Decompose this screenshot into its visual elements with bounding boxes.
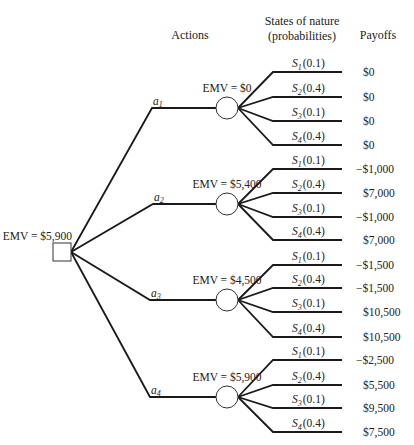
payoff-value: −$1,000 — [356, 163, 394, 176]
action-label-a4: a4 — [151, 384, 161, 398]
state-label-probability: (0.1) — [303, 250, 325, 263]
header-states-of-nature: States of nature — [265, 14, 340, 28]
tree-nodes — [53, 97, 238, 408]
state-label-probability: (0.1) — [303, 393, 325, 406]
state-label-subscript: 4 — [298, 136, 302, 145]
state-label: S3(0.1) — [292, 202, 325, 217]
state-label: S2(0.4) — [292, 370, 325, 385]
state-label-subscript: 1 — [298, 256, 302, 265]
payoff-value: $0 — [363, 66, 375, 78]
header-actions: Actions — [171, 28, 209, 42]
state-edge — [238, 288, 342, 300]
state-label-probability: (0.4) — [303, 225, 325, 238]
state-edge — [238, 204, 342, 217]
state-label-probability: (0.1) — [303, 345, 325, 358]
action-label-a1: a1 — [153, 95, 163, 109]
state-label-probability: (0.4) — [303, 178, 325, 191]
state-label-subscript: 3 — [297, 208, 302, 217]
state-label-probability: (0.4) — [303, 273, 325, 286]
state-label: S1(0.1) — [292, 57, 325, 72]
header-payoffs: Payoffs — [360, 28, 397, 42]
payoff-value: $0 — [363, 139, 375, 151]
action-label-a2: a2 — [154, 191, 164, 205]
payoff-value: $10,500 — [363, 306, 401, 319]
decision-node-square — [53, 243, 71, 261]
action-subscript: 4 — [157, 389, 161, 398]
payoff-value: $9,500 — [363, 402, 395, 415]
payoff-value: $5,500 — [363, 379, 395, 392]
state-label: S4(0.4) — [292, 322, 325, 337]
state-label-probability: (0.1) — [303, 202, 325, 215]
state-label-subscript: 1 — [298, 160, 302, 169]
header-probabilities: (probabilities) — [268, 29, 336, 43]
payoff-value: −$2,500 — [356, 354, 394, 367]
payoff-value: $10,500 — [363, 331, 401, 344]
chance-emv-label: EMV = $5,400 — [192, 178, 261, 191]
decision-tree-canvas: Actions States of nature (probabilities)… — [0, 0, 414, 445]
action-edge-a2 — [71, 204, 216, 252]
state-label-subscript: 4 — [298, 328, 302, 337]
state-label-subscript: 1 — [298, 351, 302, 360]
chance-emv-label: EMV = $5,900 — [192, 371, 261, 384]
payoff-value: $7,000 — [363, 234, 395, 247]
state-label-subscript: 4 — [298, 423, 302, 432]
payoff-value: $0 — [363, 91, 375, 103]
state-label: S3(0.1) — [292, 393, 325, 408]
chance-node-circle — [216, 193, 238, 215]
chance-node-circle — [216, 289, 238, 311]
state-edge — [238, 300, 342, 312]
payoff-value: −$1,500 — [356, 259, 394, 272]
payoff-value: −$1,000 — [356, 211, 394, 224]
state-label: S1(0.1) — [292, 345, 325, 360]
state-label: S1(0.1) — [292, 154, 325, 169]
decision-tree-diagram: Actions States of nature (probabilities)… — [0, 0, 414, 445]
chance-emv-label: EMV = $0 — [202, 82, 251, 94]
state-label: S2(0.4) — [292, 82, 325, 97]
state-label-subscript: 2 — [298, 376, 302, 385]
state-label-subscript: 4 — [298, 231, 302, 240]
state-label-probability: (0.4) — [303, 322, 325, 335]
state-label-subscript: 2 — [298, 184, 302, 193]
state-label: S3(0.1) — [292, 106, 325, 121]
state-label-subscript: 1 — [298, 63, 302, 72]
state-label-probability: (0.1) — [303, 297, 325, 310]
action-subscript: 3 — [156, 292, 161, 301]
state-label: S4(0.4) — [292, 225, 325, 240]
payoff-value: $7,000 — [363, 187, 395, 200]
state-label-probability: (0.1) — [303, 57, 325, 70]
state-label-probability: (0.1) — [303, 154, 325, 167]
state-label-probability: (0.4) — [303, 417, 325, 430]
state-label-probability: (0.4) — [303, 130, 325, 143]
state-label: S4(0.4) — [292, 417, 325, 432]
payoff-value: $0 — [363, 115, 375, 127]
state-label: S1(0.1) — [292, 250, 325, 265]
state-label-probability: (0.4) — [303, 82, 325, 95]
state-label-probability: (0.4) — [303, 370, 325, 383]
state-label-subscript: 2 — [298, 279, 302, 288]
action-subscript: 1 — [159, 100, 163, 109]
payoff-value: $7,500 — [363, 426, 395, 439]
state-label: S2(0.4) — [292, 178, 325, 193]
state-label-subscript: 3 — [297, 399, 302, 408]
state-edge — [238, 97, 342, 108]
state-edge — [238, 108, 342, 121]
state-label-subscript: 2 — [298, 88, 302, 97]
state-edge — [238, 385, 342, 397]
payoff-value: −$1,500 — [356, 282, 394, 295]
action-label-a3: a3 — [151, 287, 161, 301]
root-emv-label: EMV = $5,900 — [3, 230, 72, 243]
state-label-probability: (0.1) — [303, 106, 325, 119]
chance-emv-label: EMV = $4,500 — [192, 274, 261, 287]
state-label-subscript: 3 — [297, 303, 302, 312]
state-edge — [238, 193, 342, 204]
state-label: S3(0.1) — [292, 297, 325, 312]
chance-node-circle — [216, 386, 238, 408]
state-label: S2(0.4) — [292, 273, 325, 288]
chance-node-circle — [216, 97, 238, 119]
action-subscript: 2 — [160, 196, 164, 205]
state-label-subscript: 3 — [297, 112, 302, 121]
state-label: S4(0.4) — [292, 130, 325, 145]
state-edge — [238, 397, 342, 408]
